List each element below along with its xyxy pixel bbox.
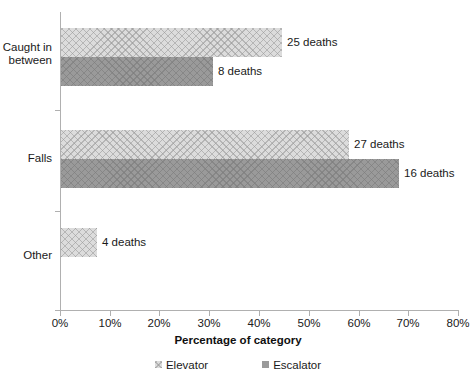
y-axis-tick [55,211,61,212]
legend-label-elevator: Elevator [166,359,208,371]
bar-caught-in-between-escalator[interactable] [61,57,213,86]
x-axis-tick [458,311,459,316]
legend-item-escalator[interactable]: Escalator [262,359,321,371]
legend-swatch-escalator-icon [262,361,269,368]
x-tick-label-80: 80% [436,317,476,329]
x-axis-tick [259,311,260,316]
bar-label-caught-in-between-elevator: 25 deaths [287,37,338,49]
bar-label-other-elevator: 4 deaths [102,237,146,249]
category-label-line-2: between [0,54,52,67]
bar-label-caught-in-between-escalator: 8 deaths [218,66,262,78]
bar-other-elevator[interactable] [61,228,97,257]
x-axis-title: Percentage of category [0,334,476,346]
x-tick-label-70: 70% [386,317,430,329]
legend-label-escalator: Escalator [273,359,321,371]
bar-caught-in-between-elevator[interactable] [61,28,282,57]
chart-legend: Elevator Escalator [0,359,476,371]
x-tick-label-50: 50% [287,317,331,329]
x-tick-label-0: 0% [38,317,82,329]
bar-chart: 0% 10% 20% 30% 40% 50% 60% 70% 80% Caugh… [0,0,476,382]
x-axis-tick [408,311,409,316]
x-tick-label-10: 10% [88,317,132,329]
category-label-line-1: Caught in [0,41,52,54]
legend-item-elevator[interactable]: Elevator [155,359,208,371]
x-tick-label-60: 60% [337,317,381,329]
category-label-caught-in-between: Caught in between [0,41,52,67]
legend-swatch-elevator-icon [155,361,162,368]
bar-label-falls-elevator: 27 deaths [354,139,405,151]
x-axis-tick [309,311,310,316]
x-axis-tick [110,311,111,316]
x-axis-tick [60,311,61,316]
x-tick-label-20: 20% [137,317,181,329]
category-label-other: Other [0,249,52,262]
x-axis-tick [209,311,210,316]
y-axis-tick [55,110,61,111]
bar-falls-elevator[interactable] [61,130,349,159]
x-axis-tick [159,311,160,316]
bar-falls-escalator[interactable] [61,159,399,188]
category-label-falls: Falls [0,152,52,165]
x-tick-label-40: 40% [237,317,281,329]
x-tick-label-30: 30% [187,317,231,329]
x-axis-tick [359,311,360,316]
bar-label-falls-escalator: 16 deaths [404,168,455,180]
